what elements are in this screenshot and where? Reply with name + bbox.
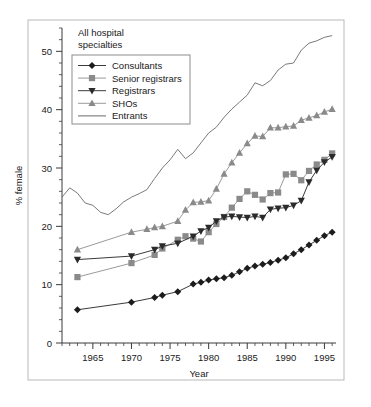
legend-label-3: SHOs — [112, 98, 138, 109]
y-tick-label: 0 — [47, 338, 52, 349]
data-point — [260, 196, 266, 202]
data-point — [252, 192, 258, 198]
data-point — [74, 274, 80, 280]
data-point — [298, 177, 304, 183]
legend-label-1: Senior registrars — [112, 73, 182, 84]
x-tick-label: 1985 — [237, 352, 258, 363]
data-point — [267, 190, 273, 196]
data-point — [229, 205, 235, 211]
y-tick-label: 20 — [41, 221, 52, 232]
x-tick-label: 1965 — [82, 352, 103, 363]
chart-legend: ConsultantsSenior registrarsRegistrarsSH… — [72, 55, 190, 124]
x-tick-label: 1990 — [275, 352, 296, 363]
panel-label-line2: specialties — [78, 39, 123, 50]
y-tick-label: 40 — [41, 104, 52, 115]
data-point — [198, 238, 204, 244]
y-tick-label: 50 — [41, 46, 52, 57]
y-tick-label: 30 — [41, 163, 52, 174]
x-axis-title: Year — [189, 368, 208, 379]
x-tick-label: 1975 — [159, 352, 180, 363]
y-axis-title: % female — [13, 166, 24, 206]
legend-label-4: Entrants — [112, 110, 148, 121]
data-point — [290, 171, 296, 177]
panel-label-line1: All hospital — [78, 27, 124, 38]
data-point — [283, 171, 289, 177]
x-tick-label: 1995 — [314, 352, 335, 363]
data-point — [128, 260, 134, 266]
legend-label-2: Registrars — [112, 85, 156, 96]
x-tick-label: 1970 — [121, 352, 142, 363]
data-point — [275, 189, 281, 195]
legend-marker — [89, 75, 95, 81]
legend-label-0: Consultants — [112, 60, 162, 71]
chart-figure: 196519701975198019851990199501020304050Y… — [0, 0, 371, 407]
x-tick-label: 1980 — [198, 352, 219, 363]
data-point — [244, 188, 250, 194]
data-point — [306, 168, 312, 174]
data-point — [236, 196, 242, 202]
y-tick-label: 10 — [41, 279, 52, 290]
data-point — [314, 161, 320, 167]
